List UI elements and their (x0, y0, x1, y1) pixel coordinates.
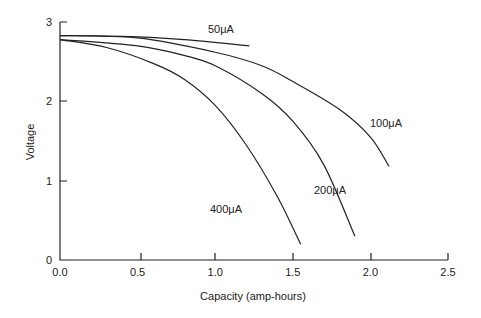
series-line (60, 36, 389, 167)
x-tick-label: 1.0 (208, 266, 223, 278)
x-tick-label: 0.0 (52, 266, 67, 278)
y-tick-label: 1 (46, 175, 52, 187)
x-tick-label: 1.5 (285, 266, 300, 278)
x-tick-label: 2.5 (440, 266, 455, 278)
series-line (60, 40, 355, 237)
y-tick-labels: 0123 (46, 16, 52, 266)
series-line (60, 40, 301, 245)
x-axis-label: Capacity (amp-hours) (200, 290, 306, 302)
y-axis-label: Voltage (24, 124, 36, 161)
series-label: 50μA (208, 23, 235, 35)
x-tick-label: 2.0 (363, 266, 378, 278)
series-label: 200μA (314, 184, 347, 196)
discharge-chart: 0123 0.00.51.01.52.02.5 Voltage Capacity… (0, 0, 481, 318)
y-tick-label: 2 (46, 95, 52, 107)
y-tick-label: 3 (46, 16, 52, 28)
x-tick-labels: 0.00.51.01.52.02.5 (52, 266, 455, 278)
series-labels: 50μA100μA200μA400μA (208, 23, 403, 215)
axes (60, 22, 448, 260)
x-tick-label: 0.5 (130, 266, 145, 278)
series-label: 100μA (370, 117, 403, 129)
y-tick-label: 0 (46, 254, 52, 266)
series-label: 400μA (210, 203, 243, 215)
